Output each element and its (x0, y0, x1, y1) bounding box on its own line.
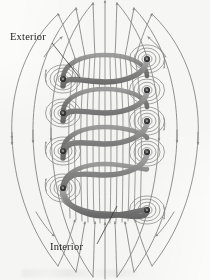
interior-label: Interior (50, 241, 83, 252)
exterior-label: Exterior (10, 31, 46, 42)
solenoid-field-diagram: Exterior Interior (0, 0, 210, 280)
